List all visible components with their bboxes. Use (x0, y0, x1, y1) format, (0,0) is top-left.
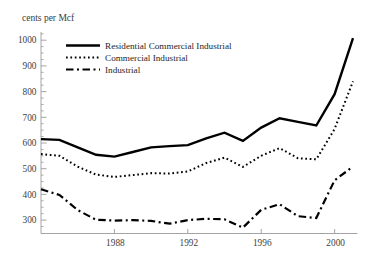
line-chart: 3004005006007008009001000198819921996200… (0, 0, 369, 265)
legend-label-industrial: Industrial (105, 65, 141, 75)
y-tick-label: 800 (23, 87, 37, 97)
legend-label-commercial: Commercial Industrial (105, 53, 188, 63)
series-line-industrial (41, 167, 353, 228)
x-tick-label: 1992 (180, 238, 199, 248)
series-line-commercial (41, 81, 353, 177)
x-tick-label: 2000 (326, 238, 345, 248)
legend-label-residential: Residential Commercial Industrial (105, 41, 232, 51)
y-tick-label: 300 (23, 215, 37, 225)
series-line-residential (41, 38, 353, 157)
legend: Residential Commercial IndustrialCommerc… (66, 41, 232, 75)
y-tick-label: 900 (23, 61, 37, 71)
y-tick-label: 500 (23, 164, 37, 174)
x-tick-label: 1996 (253, 238, 272, 248)
y-tick-label: 600 (23, 138, 37, 148)
y-tick-label: 1000 (18, 35, 37, 45)
x-tick-label: 1988 (106, 238, 125, 248)
y-tick-label: 400 (23, 190, 37, 200)
y-tick-label: 700 (23, 113, 37, 123)
chart-figure: cents per Mcf 30040050060070080090010001… (0, 0, 369, 265)
